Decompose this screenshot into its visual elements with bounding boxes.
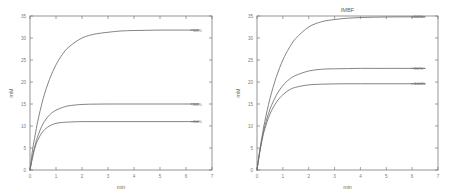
figure-container: 0123456705101520253035minmM10%50%90% 012… — [0, 0, 451, 193]
x-tick-label: 3 — [107, 174, 110, 179]
y-tick-label: 30 — [248, 36, 254, 41]
y-tick-label: 15 — [21, 102, 27, 107]
x-tick-label: 2 — [81, 174, 84, 179]
y-axis-label: mM — [235, 88, 241, 97]
left-chart-svg: 0123456705101520253035minmM10%50%90% — [0, 0, 225, 193]
y-tick-label: 35 — [21, 14, 27, 19]
plot-frame — [30, 16, 212, 170]
chart-panel-left: 0123456705101520253035minmM10%50%90% — [0, 0, 225, 193]
x-tick-label: 4 — [133, 174, 136, 179]
series-label-80%: 80% — [414, 66, 423, 71]
x-tick-label: 7 — [211, 174, 214, 179]
y-tick-label: 30 — [21, 36, 27, 41]
y-tick-label: 20 — [248, 80, 254, 85]
y-tick-label: 5 — [23, 146, 26, 151]
chart-panel-right: 0123456705101520253035minmMIMBF50%80%100… — [225, 0, 451, 193]
y-axis-label: mM — [8, 88, 14, 97]
series-label-50%: 50% — [193, 102, 202, 107]
x-tick-label: 1 — [55, 174, 58, 179]
series-label-100%: 100% — [414, 81, 425, 86]
x-tick-label: 7 — [437, 174, 440, 179]
y-tick-label: 0 — [23, 168, 26, 173]
y-tick-label: 25 — [248, 58, 254, 63]
series-curve-10% — [30, 30, 199, 170]
series-curve-100% — [257, 84, 425, 170]
y-tick-label: 15 — [248, 102, 254, 107]
y-tick-label: 10 — [21, 124, 27, 129]
series-curve-90% — [30, 122, 199, 170]
x-axis-label: min — [343, 184, 352, 190]
y-tick-label: 35 — [248, 14, 254, 19]
x-tick-label: 5 — [385, 174, 388, 179]
y-tick-label: 10 — [248, 124, 254, 129]
y-tick-label: 25 — [21, 58, 27, 63]
x-tick-label: 5 — [159, 174, 162, 179]
y-tick-label: 0 — [250, 168, 253, 173]
plot-frame — [257, 16, 438, 170]
right-chart-svg: 0123456705101520253035minmMIMBF50%80%100… — [225, 0, 451, 193]
x-tick-label: 6 — [185, 174, 188, 179]
x-tick-label: 0 — [29, 174, 32, 179]
y-tick-label: 5 — [250, 146, 253, 151]
series-curve-50% — [257, 17, 425, 170]
y-tick-label: 20 — [21, 80, 27, 85]
series-label-90%: 90% — [193, 119, 202, 124]
series-label-50%: 50% — [414, 14, 423, 19]
x-axis-label: min — [117, 184, 126, 190]
series-curve-50% — [30, 104, 199, 170]
series-label-10%: 10% — [193, 28, 202, 33]
chart-title: IMBF — [341, 7, 355, 13]
x-tick-label: 6 — [411, 174, 414, 179]
x-tick-label: 0 — [256, 174, 259, 179]
x-tick-label: 3 — [333, 174, 336, 179]
x-tick-label: 1 — [282, 174, 285, 179]
x-tick-label: 4 — [359, 174, 362, 179]
x-tick-label: 2 — [307, 174, 310, 179]
